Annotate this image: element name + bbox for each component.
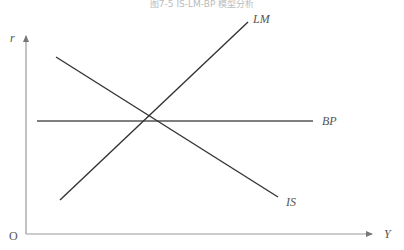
figure-title: 图7-5 IS-LM-BP 模型分析 xyxy=(150,0,254,9)
origin-label: O xyxy=(9,229,18,243)
lm-label: LM xyxy=(252,12,271,26)
bp-label: BP xyxy=(322,114,337,128)
y-axis-label: r xyxy=(10,31,15,45)
x-axis-label: Y xyxy=(384,227,392,241)
is-lm-bp-diagram: 图7-5 IS-LM-BP 模型分析 r Y O LM BP IS xyxy=(0,0,404,250)
is-label: IS xyxy=(285,195,296,209)
lm-curve xyxy=(60,22,248,200)
is-curve xyxy=(56,57,278,197)
